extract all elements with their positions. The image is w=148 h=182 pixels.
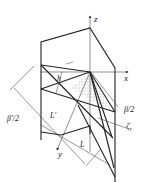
h-label: h — [57, 74, 61, 83]
z-axis-label: z — [93, 14, 98, 24]
geometry-diagram: z x y h β/2 β′/2 L′ L ζr — [0, 0, 148, 182]
dimension-lines — [10, 62, 126, 166]
beta-half-label: β/2 — [123, 105, 134, 114]
beta-prime-half-label: β′/2 — [6, 114, 19, 123]
zeta-label: ζr — [126, 121, 133, 132]
x-axis-label: x — [123, 73, 128, 83]
L-label: L — [79, 140, 85, 149]
L-prime-label: L′ — [49, 111, 56, 120]
y-axis-label: y — [57, 149, 62, 159]
